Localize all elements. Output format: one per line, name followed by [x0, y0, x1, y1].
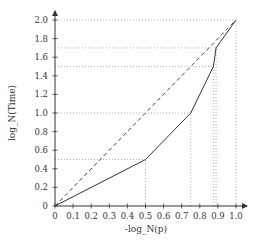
- y-tick-label: 1.8: [34, 34, 48, 44]
- y-tick-label: 0.2: [34, 182, 48, 192]
- x-tick-label: 0.8: [193, 211, 207, 221]
- x-tick-label: 0.9: [211, 211, 225, 221]
- x-tick-label: 1.0: [229, 211, 243, 221]
- y-tick-label: 2.0: [34, 15, 48, 25]
- x-tick-label: 0.1: [66, 211, 80, 221]
- x-tick-label: 0.2: [84, 211, 98, 221]
- axes: [55, 11, 247, 206]
- line-chart: 00.10.20.30.40.50.60.70.80.91.0 00.20.40…: [0, 0, 258, 241]
- y-axis-ticks: 00.20.40.60.81.01.21.41.61.82.0: [34, 15, 57, 211]
- x-tick-label: 0.7: [175, 211, 189, 221]
- y-tick-label: 1.0: [34, 108, 48, 118]
- x-tick-label: 0.3: [103, 211, 117, 221]
- y-tick-label: 0: [43, 201, 48, 211]
- x-tick-label: 0.6: [157, 211, 171, 221]
- x-tick-label: 0: [52, 211, 57, 221]
- x-tick-label: 0.5: [139, 211, 153, 221]
- y-axis-label: log_N(Time): [7, 85, 18, 141]
- y-tick-label: 0.8: [34, 127, 48, 137]
- y-tick-label: 1.4: [34, 71, 48, 81]
- y-tick-label: 1.6: [34, 52, 48, 62]
- y-tick-label: 1.2: [34, 89, 48, 99]
- x-axis-label: -log_N(p): [125, 224, 167, 235]
- y-tick-label: 0.4: [34, 164, 48, 174]
- y-tick-label: 0.6: [34, 145, 48, 155]
- x-tick-label: 0.4: [121, 211, 135, 221]
